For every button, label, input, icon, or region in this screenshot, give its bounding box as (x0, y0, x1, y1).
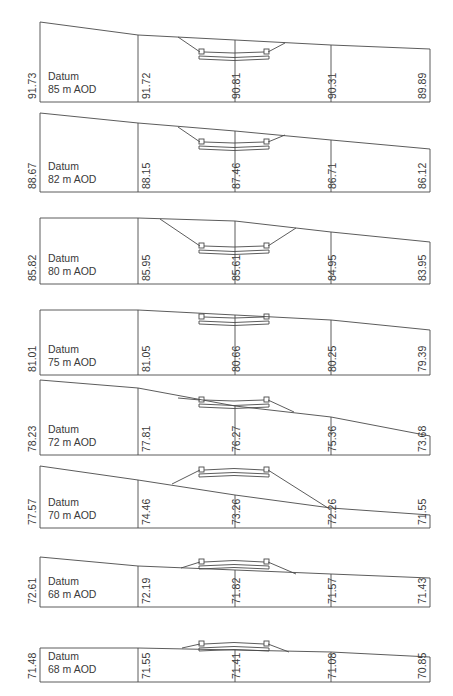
level-value: 91.72 (140, 73, 152, 99)
datum-label: Datum (48, 496, 79, 508)
level-value: 89.89 (416, 73, 428, 99)
level-value: 72.26 (326, 499, 338, 525)
section-panel: Datum70 m AOD77.5774.4673.2672.2671.55 (26, 466, 430, 528)
bridge-deck (178, 37, 285, 61)
bridge-deck (178, 397, 294, 412)
level-value: 71.55 (416, 499, 428, 525)
level-value: 71.48 (26, 653, 38, 679)
level-value: 90.81 (230, 73, 242, 99)
level-value: 81.01 (26, 346, 38, 372)
abutment-right (264, 559, 269, 564)
slope-left (181, 562, 200, 568)
datum-value: 82 m AOD (48, 173, 97, 185)
datum-value: 68 m AOD (48, 588, 97, 600)
level-value: 80.25 (326, 346, 338, 372)
bridge-deck (160, 219, 296, 255)
datum-value: 72 m AOD (48, 436, 97, 448)
deck-top (204, 142, 264, 143)
level-value: 83.95 (416, 255, 428, 281)
level-value: 71.57 (326, 578, 338, 604)
level-value: 87.46 (230, 163, 242, 189)
datum-label: Datum (48, 70, 79, 82)
level-value: 71.55 (140, 653, 152, 679)
datum-label: Datum (48, 575, 79, 587)
datum-label: Datum (48, 252, 79, 264)
abutment-right (264, 467, 269, 472)
section-panel: Datum68 m AOD72.6172.1971.8271.5771.43 (26, 557, 430, 607)
datum-label: Datum (48, 343, 79, 355)
level-value: 74.46 (140, 499, 152, 525)
slope-right (268, 470, 328, 508)
section-panel: Datum72 m AOD78.2377.8176.2775.3673.68 (26, 380, 430, 455)
section-panel: Datum68 m AOD71.4871.5571.4171.0870.85 (26, 641, 430, 682)
datum-value: 75 m AOD (48, 356, 97, 368)
datum-label: Datum (48, 160, 79, 172)
deck-top (204, 469, 264, 471)
deck-top (204, 400, 264, 401)
deck-top (204, 643, 264, 645)
deck-top (204, 317, 264, 318)
deck-top (204, 52, 264, 53)
deck-beam (199, 473, 269, 478)
slope-left (172, 470, 200, 484)
level-value: 78.23 (26, 426, 38, 452)
level-value: 88.15 (140, 163, 152, 189)
level-value: 72.61 (26, 578, 38, 604)
level-value: 86.12 (416, 163, 428, 189)
level-value: 88.67 (26, 163, 38, 189)
datum-label: Datum (48, 650, 79, 662)
datum-label: Datum (48, 423, 79, 435)
datum-value: 80 m AOD (48, 265, 97, 277)
bridge-deck (172, 467, 328, 508)
level-value: 86.71 (326, 163, 338, 189)
level-value: 73.68 (416, 426, 428, 452)
slope-right (268, 135, 285, 142)
datum-value: 70 m AOD (48, 509, 97, 521)
deck-beam (199, 56, 269, 61)
slope-left (178, 37, 200, 52)
level-value: 85.82 (26, 255, 38, 281)
level-value: 79.39 (416, 346, 428, 372)
datum-value: 85 m AOD (48, 83, 97, 95)
level-value: 76.27 (230, 426, 242, 452)
section-panel: Datum82 m AOD88.6788.1587.4686.7186.12 (26, 113, 430, 192)
section-panel: Datum85 m AOD91.7391.7290.8190.3189.89 (26, 22, 430, 102)
deck-beam (199, 565, 269, 570)
level-value: 77.81 (140, 426, 152, 452)
level-value: 85.61 (230, 255, 242, 281)
level-value: 84.95 (326, 255, 338, 281)
level-value: 81.05 (140, 346, 152, 372)
slope-left (178, 127, 200, 142)
level-value: 77.57 (26, 499, 38, 525)
level-value: 71.82 (230, 578, 242, 604)
section-panel: Datum80 m AOD85.8285.9585.6184.9583.95 (26, 218, 430, 284)
level-value: 72.19 (140, 578, 152, 604)
abutment-left (199, 314, 204, 319)
datum-value: 68 m AOD (48, 663, 97, 675)
level-value: 90.31 (326, 73, 338, 99)
level-value: 85.95 (140, 255, 152, 281)
level-value: 71.43 (416, 578, 428, 604)
slope-right (268, 228, 296, 246)
level-value: 70.85 (416, 653, 428, 679)
deck-beam (199, 146, 269, 151)
abutment-left (199, 559, 204, 564)
abutment-left (199, 641, 204, 646)
sections-diagram: Datum85 m AOD91.7391.7290.8190.3189.89Da… (0, 0, 453, 696)
abutment-left (199, 467, 204, 472)
deck-beam (199, 250, 269, 255)
bridge-deck (199, 314, 269, 326)
deck-beam (199, 321, 269, 326)
abutment-right (264, 397, 269, 402)
section-panel: Datum75 m AOD81.0181.0580.6680.2579.39 (26, 310, 430, 375)
level-value: 71.41 (230, 653, 242, 679)
level-value: 80.66 (230, 346, 242, 372)
deck-top (204, 561, 264, 563)
abutment-right (264, 641, 269, 646)
level-value: 75.36 (326, 426, 338, 452)
level-value: 71.08 (326, 653, 338, 679)
level-value: 91.73 (26, 73, 38, 99)
level-value: 73.26 (230, 499, 242, 525)
deck-top (204, 246, 264, 247)
slope-left (160, 219, 200, 246)
